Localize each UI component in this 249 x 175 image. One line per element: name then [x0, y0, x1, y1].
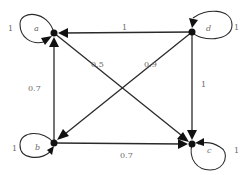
node-label-a: a [34, 24, 39, 33]
node-label-d: d [206, 24, 211, 33]
arrowhead-loop-c [195, 138, 204, 146]
arrowhead-d-b [57, 129, 69, 140]
self-loop-d [192, 11, 232, 39]
weight-d-a: 1 [122, 23, 127, 32]
edge-a-c [54, 33, 186, 139]
weight-b-a: 0.7 [28, 84, 41, 93]
arrowhead-b-a [49, 37, 59, 47]
edge-b-c [54, 143, 184, 144]
weight-loop-b: 1 [12, 144, 17, 153]
edge-d-b [60, 32, 192, 138]
node-c [189, 141, 196, 148]
weight-loop-a: 1 [8, 24, 13, 33]
weight-loop-c: 1 [234, 146, 239, 155]
weight-d-c: 1 [201, 80, 206, 89]
node-a [51, 30, 58, 37]
arrowhead-loop-d [189, 18, 198, 28]
edge-d-a [62, 32, 192, 33]
weight-b-c: 0.7 [120, 151, 133, 160]
arrowhead-loop-a [41, 36, 52, 45]
node-d [189, 29, 196, 36]
weight-a-c: 0.5 [91, 60, 104, 69]
arrowhead-d-c [187, 130, 197, 140]
weight-loop-d: 1 [234, 23, 239, 32]
node-label-c: c [207, 146, 212, 155]
arrowhead-d-a [58, 28, 68, 38]
weight-d-b: 0.9 [144, 60, 157, 69]
node-b [51, 140, 58, 147]
graph-diagram: a d b c 1 0.5 0.9 1 0.7 0.7 1 1 1 1 [0, 0, 249, 175]
node-label-b: b [35, 143, 40, 152]
